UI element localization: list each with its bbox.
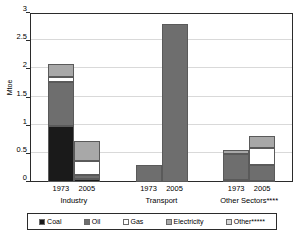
bar — [249, 136, 275, 182]
y-axis-ticks: 00.511.522.53 — [0, 13, 27, 182]
bar — [162, 24, 188, 182]
legend-label: Coal — [47, 218, 61, 226]
bar-segment — [249, 148, 275, 165]
legend-swatch-icon — [226, 219, 232, 225]
legend-label: Electricity — [174, 218, 204, 226]
legend-swatch-icon — [39, 219, 45, 225]
x-axis-group-label: Industry — [30, 196, 118, 205]
bar-segment — [223, 150, 249, 155]
bar — [74, 141, 100, 182]
bar-segment — [48, 82, 74, 125]
y-axis-tick-label: 3 — [3, 5, 27, 13]
legend-label: Other***** — [234, 218, 265, 226]
legend-swatch-icon — [166, 219, 172, 225]
bar-segment — [74, 179, 100, 182]
legend-label: Oil — [92, 218, 101, 226]
bar — [223, 150, 249, 182]
legend-label: Gas — [131, 218, 144, 226]
bar-segment — [136, 165, 162, 182]
x-axis-group-label: Other Sectors**** — [205, 196, 293, 205]
y-axis-tick-label: 2.5 — [3, 33, 27, 41]
bar-segment — [48, 77, 74, 83]
y-axis-tick-label: 0.5 — [3, 146, 27, 154]
bar-segment — [74, 141, 100, 161]
legend-item[interactable]: Other***** — [226, 218, 265, 226]
legend-swatch-icon — [84, 219, 90, 225]
bar-segment — [162, 24, 188, 182]
y-axis-tick-label: 2 — [3, 61, 27, 69]
y-axis-tick-label: 0 — [3, 174, 27, 182]
x-axis-year-label: 2005 — [243, 184, 281, 193]
stacked-bar-chart: Mtoe 00.511.522.53 19732005Industry19732… — [0, 0, 301, 240]
bar-segment — [74, 161, 100, 175]
bar — [48, 64, 74, 182]
bars-layer — [30, 13, 293, 182]
x-axis-group-label: Transport — [118, 196, 206, 205]
chart-legend: CoalOilGasElectricityOther***** — [27, 213, 277, 230]
bar-segment — [74, 175, 100, 179]
legend-item[interactable]: Oil — [84, 218, 101, 226]
y-axis-tick-label: 1.5 — [3, 90, 27, 98]
x-axis-labels: 19732005Industry19732005Transport1973200… — [30, 184, 293, 210]
x-axis-year-label: 2005 — [68, 184, 106, 193]
x-axis-year-label: 2005 — [156, 184, 194, 193]
bar-segment — [249, 136, 275, 148]
bar-segment — [223, 154, 249, 180]
legend-item[interactable]: Gas — [123, 218, 144, 226]
bar-segment — [48, 126, 74, 182]
legend-item[interactable]: Electricity — [166, 218, 204, 226]
y-axis-tick-label: 1 — [3, 118, 27, 126]
legend-item[interactable]: Coal — [39, 218, 61, 226]
bar-segment — [48, 64, 74, 77]
legend-swatch-icon — [123, 219, 129, 225]
bar — [136, 165, 162, 182]
bar-segment — [249, 165, 275, 181]
